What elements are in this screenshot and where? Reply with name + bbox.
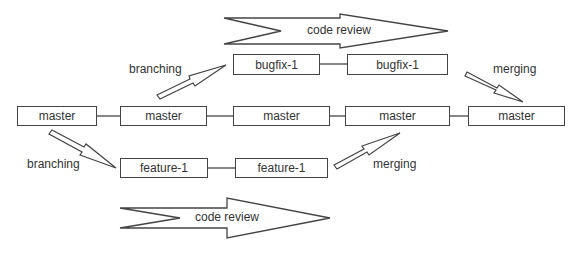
branching-label-bottom: branching (27, 157, 80, 171)
master-node-3: master (233, 106, 330, 126)
merging-label-top: merging (493, 62, 536, 76)
merging-arrow-top (465, 72, 523, 102)
master-node-4: master (345, 106, 450, 126)
bugfix-node-1: bugfix-1 (233, 54, 320, 75)
merging-label-bottom: merging (373, 157, 416, 171)
bugfix-node-2: bugfix-1 (347, 54, 448, 75)
diagram-canvas (0, 0, 578, 255)
code-review-label-top: code review (307, 23, 371, 37)
master-node-5: master (468, 106, 565, 126)
feature-node-2: feature-1 (235, 158, 328, 178)
branching-label-top: branching (129, 62, 182, 76)
master-node-1: master (17, 106, 97, 126)
master-node-2: master (120, 106, 207, 126)
feature-node-1: feature-1 (120, 158, 208, 178)
code-review-label-bottom: code review (195, 210, 259, 224)
